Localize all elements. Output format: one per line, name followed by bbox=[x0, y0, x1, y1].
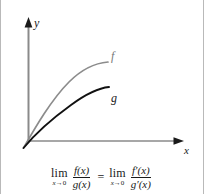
y-axis-arrow-icon bbox=[25, 17, 33, 28]
fraction-numerator-left: f(x) bbox=[73, 165, 90, 178]
fraction-numerator-right: f′(x) bbox=[131, 165, 151, 178]
curve-g bbox=[24, 87, 110, 148]
fraction-denominator-left: g(x) bbox=[72, 178, 92, 190]
lim-text-right: lim bbox=[109, 167, 126, 179]
fraction-denominator-right: g′(x) bbox=[130, 178, 152, 190]
fraction-left: f(x) g(x) bbox=[72, 165, 92, 190]
lim-text-left: lim bbox=[51, 167, 68, 179]
lim-sub-arrow-right: → bbox=[114, 179, 121, 187]
curve-label-g: g bbox=[111, 92, 117, 104]
limit-formula: lim x→0 f(x) g(x) = lim x→0 f′(x) g′(x) bbox=[1, 160, 203, 194]
y-axis-label: y bbox=[34, 17, 39, 29]
lim-subscript-left: x→0 bbox=[53, 180, 67, 187]
x-axis-arrow-icon bbox=[174, 137, 185, 144]
lim-sub-target-left: 0 bbox=[63, 179, 67, 187]
limit-operator-left: lim x→0 bbox=[51, 167, 68, 187]
lim-sub-arrow-left: → bbox=[56, 179, 63, 187]
lim-sub-target-right: 0 bbox=[121, 179, 125, 187]
lim-subscript-right: x→0 bbox=[111, 180, 125, 187]
formula-left-side: lim x→0 f(x) g(x) bbox=[51, 165, 92, 190]
formula-right-side: lim x→0 f′(x) g′(x) bbox=[109, 165, 153, 190]
limit-operator-right: lim x→0 bbox=[109, 167, 126, 187]
x-axis-label: x bbox=[184, 145, 189, 156]
fraction-right: f′(x) g′(x) bbox=[130, 165, 152, 190]
curve-label-f: f bbox=[111, 50, 114, 62]
lhopitals-rule-figure: y x f g lim x→0 f(x) g(x) = lim x→0 f′(x… bbox=[0, 0, 204, 194]
graph-plot bbox=[1, 0, 204, 160]
equals-sign: = bbox=[97, 170, 104, 185]
